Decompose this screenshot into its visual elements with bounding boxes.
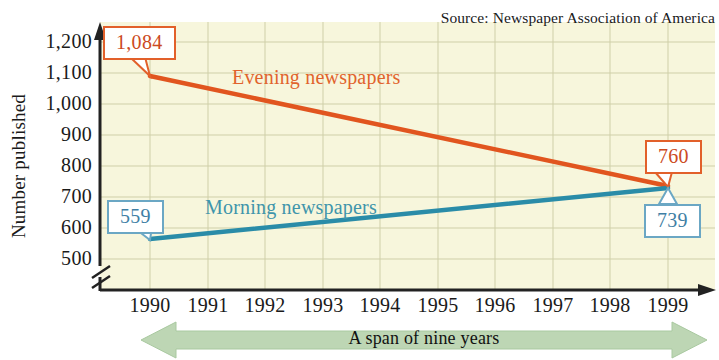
span-arrow-label: A span of nine years: [141, 328, 707, 349]
series-label-morning: Morning newspapers: [205, 196, 377, 219]
x-tick-1992: 1992: [233, 294, 297, 317]
y-tick-1200: 1,200: [10, 30, 92, 53]
x-tick-1998: 1998: [578, 294, 642, 317]
y-tick-labels: 1,200 1,100 1,000 900 800 700 600 500: [8, 0, 92, 360]
y-tick-800: 800: [10, 154, 92, 177]
y-tick-1000: 1,000: [10, 92, 92, 115]
x-tick-1995: 1995: [406, 294, 470, 317]
source-note: Source: Newspaper Association of America: [441, 9, 715, 27]
plot-area: [100, 22, 715, 290]
callout-evening-1990: 1,084: [103, 26, 176, 60]
y-tick-1100: 1,100: [10, 61, 92, 84]
callout-morning-1999: 739: [644, 204, 701, 238]
series-label-evening: Evening newspapers: [232, 66, 401, 89]
x-tick-1993: 1993: [291, 294, 355, 317]
y-tick-900: 900: [10, 123, 92, 146]
x-tick-1996: 1996: [463, 294, 527, 317]
span-arrow-group: A span of nine years: [141, 322, 707, 358]
x-tick-1994: 1994: [348, 294, 412, 317]
callout-evening-1999: 760: [645, 140, 702, 174]
x-tick-1999: 1999: [636, 294, 700, 317]
x-tick-1991: 1991: [176, 294, 240, 317]
y-tick-500: 500: [10, 247, 92, 270]
x-tick-1997: 1997: [521, 294, 585, 317]
newspaper-line-chart: Number published 1,200 1,100 1,000 900 8…: [0, 0, 719, 360]
callout-morning-1990: 559: [107, 200, 164, 234]
y-tick-700: 700: [10, 185, 92, 208]
y-tick-600: 600: [10, 216, 92, 239]
x-tick-1990: 1990: [118, 294, 182, 317]
